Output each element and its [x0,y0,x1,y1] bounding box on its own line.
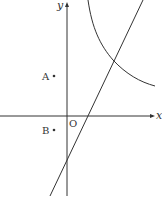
x-axis-arrow-icon [150,114,155,118]
point-a [53,75,56,78]
x-axis-label: x [156,109,162,122]
y-axis-arrow-icon [65,2,69,7]
coordinate-plane: x y O A B [0,0,162,199]
point-b [53,129,56,132]
y-axis-label: y [56,0,64,12]
point-b-label: B [42,125,49,136]
point-a-label: A [41,71,50,82]
hyperbola-curve [88,0,155,86]
origin-label: O [69,118,77,129]
linear-function-line [50,0,143,196]
